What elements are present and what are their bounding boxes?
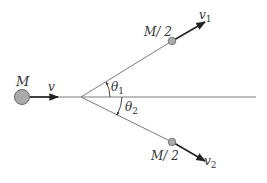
incoming-mass-ball: [15, 90, 30, 105]
lower-fragment-ball: [168, 138, 176, 146]
incoming-velocity-label: v: [48, 80, 55, 94]
theta2-subscript: 2: [132, 106, 138, 116]
incoming-mass-label: M: [15, 74, 30, 89]
theta1-angle-arc: [106, 82, 110, 97]
upper-velocity-label: v1: [199, 8, 212, 24]
collision-diagram: M v M/ 2 v1 M/ 2 v2 θ1 θ2: [0, 0, 267, 183]
lower-mass-label: M/ 2: [150, 149, 179, 163]
upper-mass-label: M/ 2: [143, 25, 172, 39]
lower-velocity-subscript: 2: [211, 160, 217, 170]
theta2-label: θ2: [125, 100, 138, 116]
theta1-label: θ1: [111, 80, 124, 96]
theta1-subscript: 1: [118, 86, 124, 96]
upper-velocity-arrow: [174, 22, 205, 40]
upper-velocity-subscript: 1: [206, 14, 212, 24]
lower-velocity-label: v2: [204, 154, 217, 170]
upper-trajectory-line: [81, 41, 172, 97]
theta2-angle-arc: [117, 97, 122, 115]
